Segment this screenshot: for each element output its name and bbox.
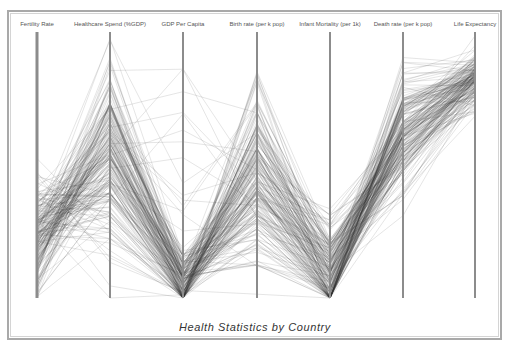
axis-label: Life Expectancy (454, 21, 496, 27)
axis-label: Infant Mortality (per 1k) (299, 21, 361, 27)
axis-label: Birth rate (per k pop) (229, 21, 284, 27)
axis-label: Healthcare Spend (%GDP) (74, 21, 146, 27)
axis-label: Fertility Rate (20, 21, 54, 27)
axis-label: Death rate (per k pop) (374, 21, 433, 27)
chart-title: Health Statistics by Country (0, 321, 510, 333)
parallel-coordinates-plot (0, 0, 510, 351)
axis-label: GDP Per Capita (162, 21, 205, 27)
